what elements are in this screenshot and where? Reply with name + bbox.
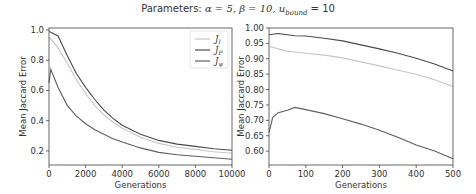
x-tick-label: 8000 <box>185 169 207 179</box>
x-tick-label: 400 <box>408 169 424 179</box>
x-tick-label: 6000 <box>148 169 170 179</box>
legend: JIJPJψ <box>190 31 228 68</box>
y-tick-label: 0.6 <box>30 85 44 95</box>
figure: 02000400060008000100000.20.40.60.81.0Gen… <box>0 0 476 194</box>
x-tick-label: 300 <box>371 169 387 179</box>
y-tick-label: 0.75 <box>245 100 264 110</box>
x-tick-label: 10000 <box>218 169 245 179</box>
left-plot: 02000400060008000100000.20.40.60.81.0Gen… <box>18 25 246 190</box>
x-tick-label: 100 <box>298 169 314 179</box>
right-plot: 01002003004005000.600.650.700.750.800.85… <box>236 23 461 190</box>
y-axis-label: Mean Jaccard Error <box>18 56 28 137</box>
y-tick-label: 0.85 <box>245 69 264 79</box>
x-tick-label: 500 <box>445 169 461 179</box>
x-axis-label: Generations <box>335 180 387 190</box>
x-tick-label: 0 <box>266 169 271 179</box>
y-tick-label: 0.80 <box>245 85 264 95</box>
y-tick-label: 0.2 <box>30 146 44 156</box>
y-tick-label: 0.4 <box>30 116 44 126</box>
axes-frame <box>269 28 453 165</box>
y-tick-label: 0.70 <box>245 115 264 125</box>
y-axis-label: Mean Jaccard Error <box>236 56 246 137</box>
x-tick-label: 4000 <box>111 169 133 179</box>
series-line-j-psi <box>49 69 232 159</box>
y-tick-label: 0.95 <box>245 38 264 48</box>
y-tick-label: 1.00 <box>245 23 264 33</box>
series-line-j-psi <box>269 107 453 158</box>
y-tick-label: 0.65 <box>245 131 264 141</box>
y-tick-label: 0.60 <box>245 146 264 156</box>
x-axis-label: Generations <box>115 180 167 190</box>
y-tick-label: 1.0 <box>30 25 44 35</box>
y-tick-label: 0.90 <box>245 54 264 64</box>
x-tick-label: 2000 <box>75 169 97 179</box>
series-line-j-i <box>269 47 453 87</box>
x-tick-label: 200 <box>334 169 350 179</box>
x-tick-label: 0 <box>46 169 51 179</box>
y-tick-label: 0.8 <box>30 55 44 65</box>
